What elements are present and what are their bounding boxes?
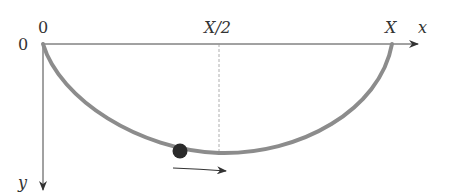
cycloid-diagram: 0 0 X/2 X x y [0,0,451,194]
half-x-label: X/2 [202,18,231,37]
motion-arrow [173,168,226,171]
brachistochrone-curve [43,44,392,153]
origin-left-label: 0 [18,35,28,54]
full-x-label: X [383,18,397,37]
ball [173,144,188,159]
y-axis-label: y [17,173,28,192]
x-axis-label: x [418,18,427,37]
origin-top-label: 0 [38,18,48,37]
